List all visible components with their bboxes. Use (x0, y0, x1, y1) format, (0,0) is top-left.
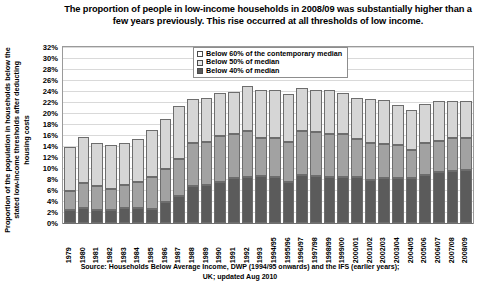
bar-segment[interactable] (378, 178, 390, 223)
bar-segment[interactable] (296, 175, 308, 223)
bar-segment[interactable] (78, 137, 90, 183)
bar-segment[interactable] (283, 94, 295, 142)
bar-segment[interactable] (242, 131, 254, 177)
bar-segment[interactable] (433, 101, 445, 141)
bar-segment[interactable] (433, 141, 445, 172)
bar-column[interactable] (173, 47, 185, 223)
bar-segment[interactable] (283, 182, 295, 223)
bar-segment[interactable] (119, 185, 131, 208)
bar-column[interactable] (91, 47, 103, 223)
bar-segment[interactable] (228, 178, 240, 223)
bar-column[interactable] (351, 47, 363, 223)
bar-segment[interactable] (406, 150, 418, 179)
bar-segment[interactable] (214, 182, 226, 223)
bar-segment[interactable] (91, 210, 103, 223)
bar-segment[interactable] (78, 183, 90, 208)
bar-segment[interactable] (105, 145, 117, 189)
bar-segment[interactable] (119, 208, 131, 223)
bar-segment[interactable] (337, 177, 349, 223)
bar-segment[interactable] (419, 175, 431, 223)
bar-column[interactable] (160, 47, 172, 223)
bar-segment[interactable] (296, 88, 308, 130)
bar-segment[interactable] (201, 98, 213, 142)
bar-column[interactable] (365, 47, 377, 223)
bar-segment[interactable] (64, 191, 76, 211)
bar-segment[interactable] (201, 185, 213, 224)
bar-segment[interactable] (105, 189, 117, 209)
bar-column[interactable] (406, 47, 418, 223)
bar-segment[interactable] (91, 143, 103, 185)
bar-column[interactable] (378, 47, 390, 223)
bar-segment[interactable] (351, 177, 363, 223)
bar-column[interactable] (419, 47, 431, 223)
bar-segment[interactable] (324, 90, 336, 135)
bar-segment[interactable] (310, 132, 322, 176)
bar-segment[interactable] (283, 142, 295, 182)
bar-segment[interactable] (187, 143, 199, 186)
bar-segment[interactable] (173, 159, 185, 196)
bar-column[interactable] (78, 47, 90, 223)
bar-segment[interactable] (351, 98, 363, 140)
bar-column[interactable] (64, 47, 76, 223)
bar-segment[interactable] (269, 138, 281, 177)
bar-segment[interactable] (132, 139, 144, 182)
bar-column[interactable] (392, 47, 404, 223)
bar-segment[interactable] (255, 90, 267, 137)
bar-column[interactable] (132, 47, 144, 223)
bar-segment[interactable] (337, 134, 349, 176)
bar-segment[interactable] (460, 170, 472, 223)
bar-segment[interactable] (64, 210, 76, 223)
bar-segment[interactable] (337, 93, 349, 135)
bar-segment[interactable] (447, 171, 459, 223)
bar-segment[interactable] (105, 210, 117, 223)
bar-segment[interactable] (187, 99, 199, 143)
bar-segment[interactable] (419, 143, 431, 175)
bar-segment[interactable] (269, 90, 281, 138)
bar-segment[interactable] (242, 177, 254, 223)
bar-segment[interactable] (255, 176, 267, 223)
bar-segment[interactable] (406, 110, 418, 150)
bar-segment[interactable] (460, 101, 472, 137)
bar-segment[interactable] (324, 177, 336, 223)
legend-item[interactable]: Below 40% of median (197, 67, 342, 75)
bar-segment[interactable] (214, 136, 226, 183)
bar-segment[interactable] (146, 209, 158, 223)
bar-segment[interactable] (187, 186, 199, 223)
bar-segment[interactable] (132, 208, 144, 223)
bar-segment[interactable] (64, 147, 76, 190)
bar-segment[interactable] (433, 172, 445, 223)
bar-segment[interactable] (419, 104, 431, 143)
bar-segment[interactable] (91, 186, 103, 210)
bar-segment[interactable] (228, 92, 240, 134)
bar-segment[interactable] (214, 93, 226, 136)
bar-segment[interactable] (365, 180, 377, 223)
bar-segment[interactable] (173, 196, 185, 224)
bar-column[interactable] (447, 47, 459, 223)
bar-segment[interactable] (228, 134, 240, 178)
bar-segment[interactable] (173, 106, 185, 158)
bar-column[interactable] (146, 47, 158, 223)
bar-segment[interactable] (365, 143, 377, 180)
bar-segment[interactable] (392, 178, 404, 223)
bar-segment[interactable] (378, 100, 390, 143)
bar-segment[interactable] (378, 144, 390, 178)
bar-segment[interactable] (242, 86, 254, 131)
bar-segment[interactable] (324, 134, 336, 177)
bar-column[interactable] (105, 47, 117, 223)
bar-segment[interactable] (406, 178, 418, 223)
bar-segment[interactable] (78, 208, 90, 223)
bar-segment[interactable] (310, 90, 322, 132)
bar-column[interactable] (433, 47, 445, 223)
bar-segment[interactable] (447, 138, 459, 170)
bar-segment[interactable] (310, 176, 322, 223)
bar-segment[interactable] (269, 177, 281, 223)
bar-segment[interactable] (296, 131, 308, 176)
bar-segment[interactable] (447, 101, 459, 138)
bar-segment[interactable] (160, 169, 172, 202)
bar-segment[interactable] (392, 105, 404, 145)
bar-segment[interactable] (146, 130, 158, 177)
bar-segment[interactable] (146, 177, 158, 208)
bar-segment[interactable] (119, 143, 131, 184)
bar-segment[interactable] (201, 142, 213, 185)
bar-segment[interactable] (132, 182, 144, 207)
